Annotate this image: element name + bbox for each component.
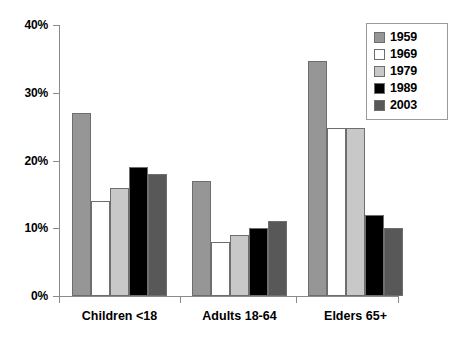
legend-label: 2003 [390, 99, 417, 112]
legend-swatch-icon [374, 66, 385, 77]
legend-swatch-icon [374, 49, 385, 60]
legend-label: 1959 [390, 31, 417, 44]
legend-label: 1989 [390, 82, 417, 95]
bar-1959-elders-65- [308, 61, 327, 296]
bar-2003-elders-65- [384, 228, 403, 296]
bar-1969-adults-18-64 [211, 242, 230, 296]
bar-1959-adults-18-64 [192, 181, 211, 296]
bar-1979-children-18 [110, 188, 129, 296]
bar-1959-children-18 [72, 113, 91, 296]
legend-item: 2003 [374, 97, 441, 114]
bar-1979-adults-18-64 [230, 235, 249, 296]
legend: 19591969197919892003 [366, 23, 448, 120]
bar-2003-adults-18-64 [268, 221, 287, 296]
bar-2003-children-18 [148, 174, 167, 296]
legend-swatch-icon [374, 83, 385, 94]
legend-item: 1979 [374, 63, 441, 80]
legend-swatch-icon [374, 100, 385, 111]
legend-item: 1969 [374, 46, 441, 63]
legend-item: 1989 [374, 80, 441, 97]
bar-1969-elders-65- [327, 128, 346, 296]
bar-chart: 40%30%20%10%0% Children <18Adults 18-64E… [0, 0, 460, 347]
bar-1979-elders-65- [346, 128, 365, 296]
bar-1989-adults-18-64 [249, 228, 268, 296]
bar-1989-elders-65- [365, 215, 384, 296]
legend-swatch-icon [374, 32, 385, 43]
legend-label: 1969 [390, 48, 417, 61]
category-label: Elders 65+ [286, 310, 425, 323]
category-label: Children <18 [50, 310, 189, 323]
legend-item: 1959 [374, 29, 441, 46]
bar-1969-children-18 [91, 201, 110, 296]
bar-1989-children-18 [129, 167, 148, 296]
legend-label: 1979 [390, 65, 417, 78]
